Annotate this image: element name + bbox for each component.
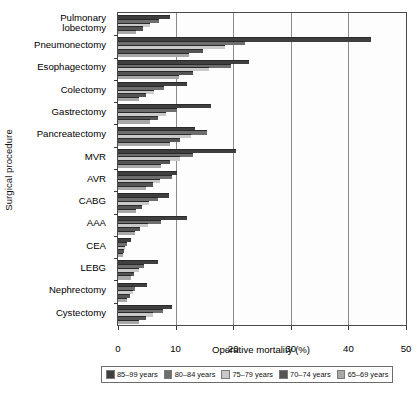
category-label: Esophagectomy — [14, 62, 106, 73]
bar — [118, 298, 127, 302]
legend-label: 80–84 years — [175, 370, 216, 379]
y-axis-tick — [114, 58, 118, 59]
x-axis-tick — [348, 326, 349, 330]
legend-label: 85–99 years — [117, 370, 158, 379]
legend-swatch — [106, 370, 115, 379]
y-axis-tick — [114, 102, 118, 103]
legend-swatch — [337, 370, 346, 379]
y-axis-tick — [114, 236, 118, 237]
bar — [118, 275, 131, 279]
x-axis-tick — [291, 326, 292, 330]
y-axis-tick — [114, 303, 118, 304]
x-axis-title: Operative mortality (%) — [117, 344, 405, 355]
y-axis-tick — [114, 147, 118, 148]
legend-item[interactable]: 75–79 years — [221, 370, 273, 379]
y-axis-tick — [114, 35, 118, 36]
chart-legend: 85–99 years80–84 years75–79 years70–74 y… — [101, 366, 393, 383]
legend-item[interactable]: 70–74 years — [279, 370, 331, 379]
bar — [118, 164, 161, 168]
category-label-list: Pulmonary lobectomyPneumonectomyEsophage… — [16, 12, 110, 324]
category-label: MVR — [14, 152, 106, 163]
x-axis-tick — [176, 326, 177, 330]
category-label: Colectomy — [14, 85, 106, 96]
category-label: Pneumonectomy — [14, 40, 106, 51]
legend-swatch — [221, 370, 230, 379]
legend-label: 65–69 years — [348, 370, 389, 379]
plot-area: 01020304050 — [117, 12, 407, 326]
legend-label: 70–74 years — [290, 370, 331, 379]
category-label: Cystectomy — [14, 308, 106, 319]
x-axis-tick — [406, 326, 407, 330]
y-axis-tick — [114, 280, 118, 281]
legend-swatch — [164, 370, 173, 379]
category-label: Pancreatectomy — [14, 129, 106, 140]
category-label: Nephrectomy — [14, 285, 106, 296]
bar — [118, 209, 136, 213]
y-axis-tick — [114, 214, 118, 215]
legend-swatch — [279, 370, 288, 379]
y-axis-tick — [114, 169, 118, 170]
bar — [118, 253, 123, 257]
y-axis-tick — [114, 191, 118, 192]
bar — [118, 320, 139, 324]
y-axis-tick — [114, 258, 118, 259]
category-label: AVR — [14, 174, 106, 185]
legend-item[interactable]: 65–69 years — [337, 370, 389, 379]
legend-label: 75–79 years — [232, 370, 273, 379]
chart-figure: Surgical procedure Pulmonary lobectomyPn… — [0, 0, 420, 396]
category-label: Gastrectomy — [14, 107, 106, 118]
bar — [118, 186, 146, 190]
bar — [118, 53, 189, 57]
bar — [118, 97, 139, 101]
gridline — [348, 13, 349, 325]
category-label: AAA — [14, 218, 106, 229]
bar — [118, 231, 135, 235]
bar — [118, 142, 170, 146]
category-label: LEBG — [14, 263, 106, 274]
y-axis-title-text: Surgical procedure — [3, 129, 14, 211]
y-axis-tick — [114, 80, 118, 81]
legend-item[interactable]: 85–99 years — [106, 370, 158, 379]
x-axis-tick — [118, 326, 119, 330]
category-label: CABG — [14, 196, 106, 207]
gridline — [291, 13, 292, 325]
category-label: CEA — [14, 241, 106, 252]
bar — [118, 75, 179, 79]
y-axis-tick — [114, 124, 118, 125]
x-axis-tick — [233, 326, 234, 330]
category-label: Pulmonary lobectomy — [14, 13, 106, 34]
bar — [118, 30, 136, 34]
bar — [118, 119, 150, 123]
legend-item[interactable]: 80–84 years — [164, 370, 216, 379]
